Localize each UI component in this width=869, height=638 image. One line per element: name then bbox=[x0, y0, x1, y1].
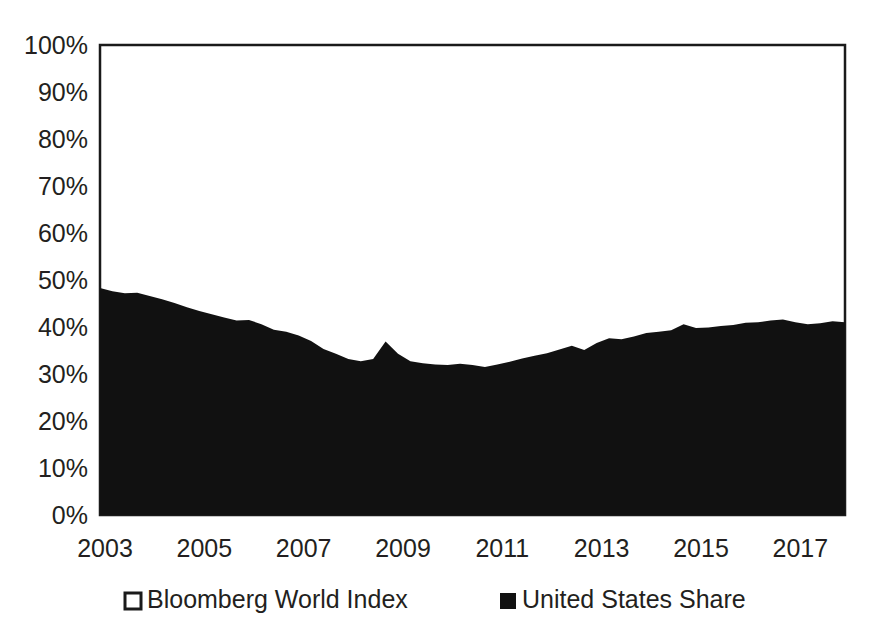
legend-item-bloomberg-world-index[interactable]: Bloomberg World Index bbox=[125, 585, 408, 613]
chart-container: 0%10%20%30%40%50%60%70%80%90%100% 200320… bbox=[0, 0, 869, 638]
x-axis-tick-2013: 2013 bbox=[574, 534, 630, 562]
y-axis-tick-30: 30% bbox=[38, 360, 88, 388]
x-axis-tick-2011: 2011 bbox=[475, 534, 529, 562]
x-axis-tick-2009: 2009 bbox=[375, 534, 431, 562]
x-axis-tick-2017: 2017 bbox=[773, 534, 829, 562]
x-axis-tick-2005: 2005 bbox=[177, 534, 233, 562]
y-axis-tick-90: 90% bbox=[38, 78, 88, 106]
y-axis-tick-60: 60% bbox=[38, 219, 88, 247]
legend-label: Bloomberg World Index bbox=[147, 585, 408, 613]
x-axis-tick-2015: 2015 bbox=[673, 534, 729, 562]
legend-label: United States Share bbox=[522, 585, 746, 613]
legend-swatch-filled-square-icon bbox=[500, 593, 516, 609]
legend-item-united-states-share[interactable]: United States Share bbox=[500, 585, 746, 613]
area-chart: 0%10%20%30%40%50%60%70%80%90%100% 200320… bbox=[0, 0, 869, 638]
y-axis-tick-50: 50% bbox=[38, 266, 88, 294]
x-axis-tick-2007: 2007 bbox=[276, 534, 332, 562]
y-axis-tick-100: 100% bbox=[24, 31, 88, 59]
y-axis-tick-70: 70% bbox=[38, 172, 88, 200]
y-axis-tick-0: 0% bbox=[52, 501, 88, 529]
y-axis-tick-40: 40% bbox=[38, 313, 88, 341]
y-axis-tick-10: 10% bbox=[38, 454, 88, 482]
x-axis-tick-2003: 2003 bbox=[77, 534, 133, 562]
legend-swatch-hollow-square-icon bbox=[125, 593, 141, 609]
y-axis-tick-80: 80% bbox=[38, 125, 88, 153]
y-axis-tick-20: 20% bbox=[38, 407, 88, 435]
